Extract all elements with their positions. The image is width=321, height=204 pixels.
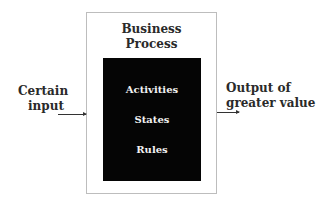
output-label-line1: Output of xyxy=(226,81,315,96)
process-title: Business Process xyxy=(86,22,217,52)
input-arrow xyxy=(58,114,86,115)
output-label-line2: greater value xyxy=(226,96,315,111)
item-rules: Rules xyxy=(103,144,201,155)
process-title-line1: Business xyxy=(86,22,217,37)
process-title-line2: Process xyxy=(86,37,217,52)
item-activities: Activities xyxy=(103,84,201,95)
input-label-line2: input xyxy=(18,99,64,114)
output-arrow xyxy=(217,112,239,113)
input-label-line1: Certain xyxy=(18,84,64,99)
output-label: Output of greater value xyxy=(226,81,315,111)
input-label: Certain input xyxy=(18,84,64,114)
item-states: States xyxy=(103,114,201,125)
